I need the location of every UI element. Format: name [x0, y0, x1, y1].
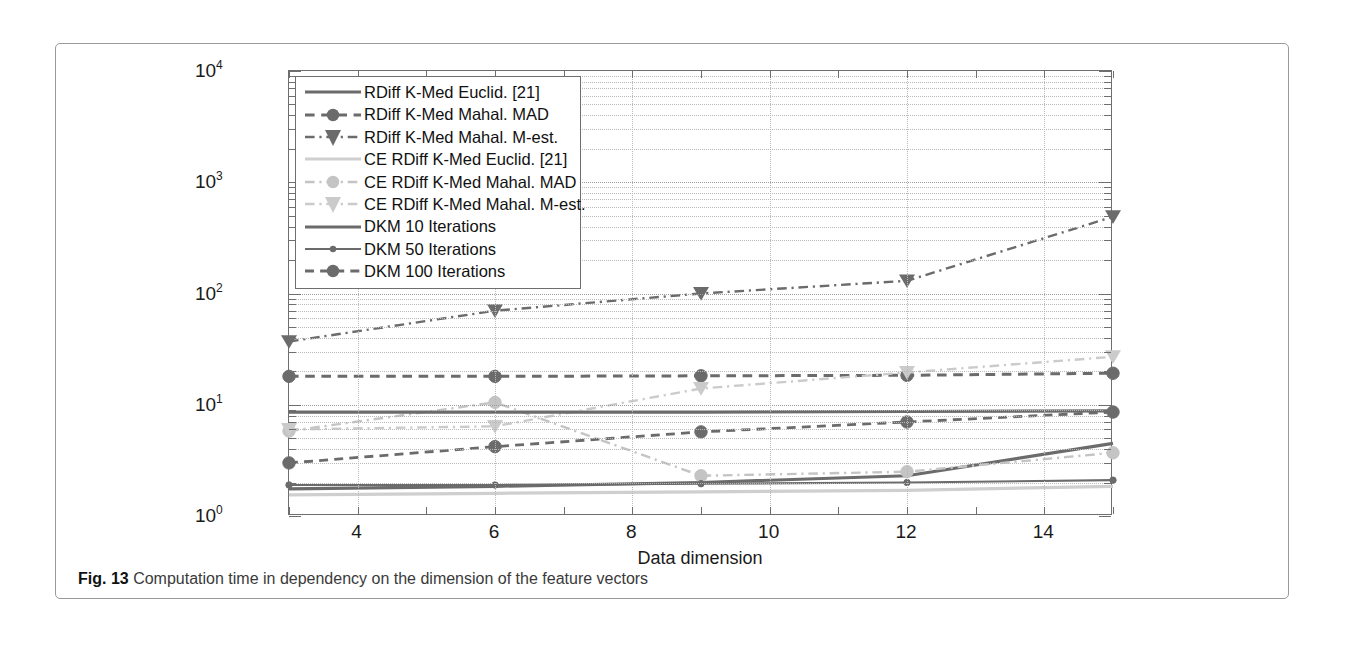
y-axis-tick-right	[1104, 299, 1111, 300]
chart-legend: RDiff K-Med Euclid. [21]RDiff K-Med Maha…	[295, 76, 581, 289]
y-axis-tick-right	[1104, 216, 1111, 217]
y-axis-tick-label: 100	[195, 503, 228, 526]
x-axis-tick-top	[632, 71, 633, 78]
x-gridline	[632, 71, 633, 514]
x-axis-tick	[426, 507, 427, 514]
y-axis-tick-right	[1104, 88, 1111, 89]
y-axis-tick-right	[1104, 149, 1111, 150]
legend-item[interactable]: RDiff K-Med Mahal. M-est.	[302, 126, 574, 148]
y-axis-tick-label: 101	[195, 392, 228, 415]
y-axis-tick-right	[1104, 318, 1111, 319]
y-gridline	[289, 318, 1111, 319]
legend-swatch	[302, 126, 364, 148]
y-axis-tick-right	[1104, 207, 1111, 208]
y-axis-tick	[289, 71, 301, 72]
series-line	[289, 411, 1113, 412]
legend-swatch	[302, 148, 364, 170]
figure-caption-label: Fig. 13	[78, 570, 129, 587]
y-axis-tick	[289, 405, 301, 406]
y-gridline	[289, 327, 1111, 328]
series-5	[281, 350, 1121, 436]
y-axis-tick	[289, 338, 296, 339]
y-axis-tick	[289, 483, 296, 484]
y-axis-tick-right	[1104, 115, 1111, 116]
legend-label: CE RDiff K-Med Euclid. [21]	[364, 151, 567, 168]
y-axis-tick-right	[1104, 311, 1111, 312]
legend-label: RDiff K-Med Euclid. [21]	[364, 84, 540, 101]
legend-label: DKM 50 Iterations	[364, 241, 496, 258]
y-gridline	[289, 438, 1111, 439]
y-axis-tick	[289, 463, 296, 464]
legend-swatch	[302, 171, 364, 193]
legend-label: CE RDiff K-Med Mahal. M-est.	[364, 196, 586, 213]
legend-sample-icon	[302, 104, 364, 126]
x-gridline	[907, 71, 908, 514]
y-axis-tick-label: 103	[195, 170, 228, 193]
y-axis-tick-right	[1104, 76, 1111, 77]
legend-sample-icon	[302, 216, 364, 238]
y-axis-tick-right	[1104, 371, 1111, 372]
legend-item[interactable]: DKM 100 Iterations	[302, 260, 574, 282]
x-axis-tick-label: 12	[895, 521, 916, 543]
x-axis-tick	[495, 507, 496, 514]
y-axis-tick-right	[1104, 463, 1111, 464]
y-gridline	[289, 294, 1111, 295]
y-gridline	[289, 311, 1111, 312]
figure-caption-text: Computation time in dependency on the di…	[133, 570, 648, 587]
y-gridline	[289, 352, 1111, 353]
y-gridline	[289, 338, 1111, 339]
x-axis-tick	[632, 507, 633, 514]
data-point-marker	[695, 426, 707, 438]
y-axis-tick-right	[1104, 327, 1111, 328]
legend-label: RDiff K-Med Mahal. MAD	[364, 106, 549, 123]
y-axis-tick	[289, 352, 296, 353]
x-axis-tick	[907, 507, 908, 514]
y-gridline	[289, 405, 1111, 406]
x-axis-tick	[976, 507, 977, 514]
y-axis-tick-right	[1104, 227, 1111, 228]
y-axis-tick-right	[1099, 294, 1111, 295]
x-axis-tick-top	[1113, 71, 1114, 78]
y-axis-tick	[289, 371, 296, 372]
legend-item[interactable]: RDiff K-Med Euclid. [21]	[302, 81, 574, 103]
x-axis-tick-label: 14	[1033, 521, 1054, 543]
x-axis-tick-label: 8	[626, 521, 637, 543]
x-axis-tick	[770, 507, 771, 514]
legend-swatch	[302, 216, 364, 238]
legend-item[interactable]: CE RDiff K-Med Euclid. [21]	[302, 148, 574, 170]
data-point-marker	[698, 481, 704, 487]
y-axis-tick	[289, 422, 296, 423]
x-axis-tick	[358, 507, 359, 514]
y-axis-tick-right	[1104, 429, 1111, 430]
y-gridline	[289, 416, 1111, 417]
y-gridline	[289, 299, 1111, 300]
x-axis-tick	[289, 507, 290, 514]
legend-item[interactable]: CE RDiff K-Med Mahal. M-est.	[302, 193, 574, 215]
series-6	[289, 411, 1113, 412]
x-axis-tick	[1113, 507, 1114, 514]
y-gridline	[289, 449, 1111, 450]
x-axis-tick-label: 6	[489, 521, 500, 543]
legend-swatch	[302, 260, 364, 282]
y-gridline	[289, 483, 1111, 484]
legend-swatch	[302, 193, 364, 215]
legend-item[interactable]: RDiff K-Med Mahal. MAD	[302, 103, 574, 125]
legend-item[interactable]: CE RDiff K-Med Mahal. MAD	[302, 171, 574, 193]
x-axis-tick-top	[1044, 71, 1045, 78]
legend-label: DKM 100 Iterations	[364, 263, 505, 280]
y-axis-tick	[289, 410, 296, 411]
y-axis-tick-right	[1099, 182, 1111, 183]
y-axis-tick	[289, 429, 296, 430]
y-axis-tick-right	[1104, 483, 1111, 484]
legend-item[interactable]: DKM 50 Iterations	[302, 238, 574, 260]
legend-sample-icon	[302, 81, 364, 103]
y-gridline	[289, 422, 1111, 423]
legend-sample-icon	[302, 260, 364, 282]
x-gridline	[770, 71, 771, 514]
y-axis-tick-right	[1104, 82, 1111, 83]
y-axis-tick-right	[1104, 104, 1111, 105]
y-axis-tick	[289, 304, 296, 305]
legend-item[interactable]: DKM 10 Iterations	[302, 215, 574, 237]
legend-label: DKM 10 Iterations	[364, 218, 496, 235]
x-axis-tick-top	[907, 71, 908, 78]
